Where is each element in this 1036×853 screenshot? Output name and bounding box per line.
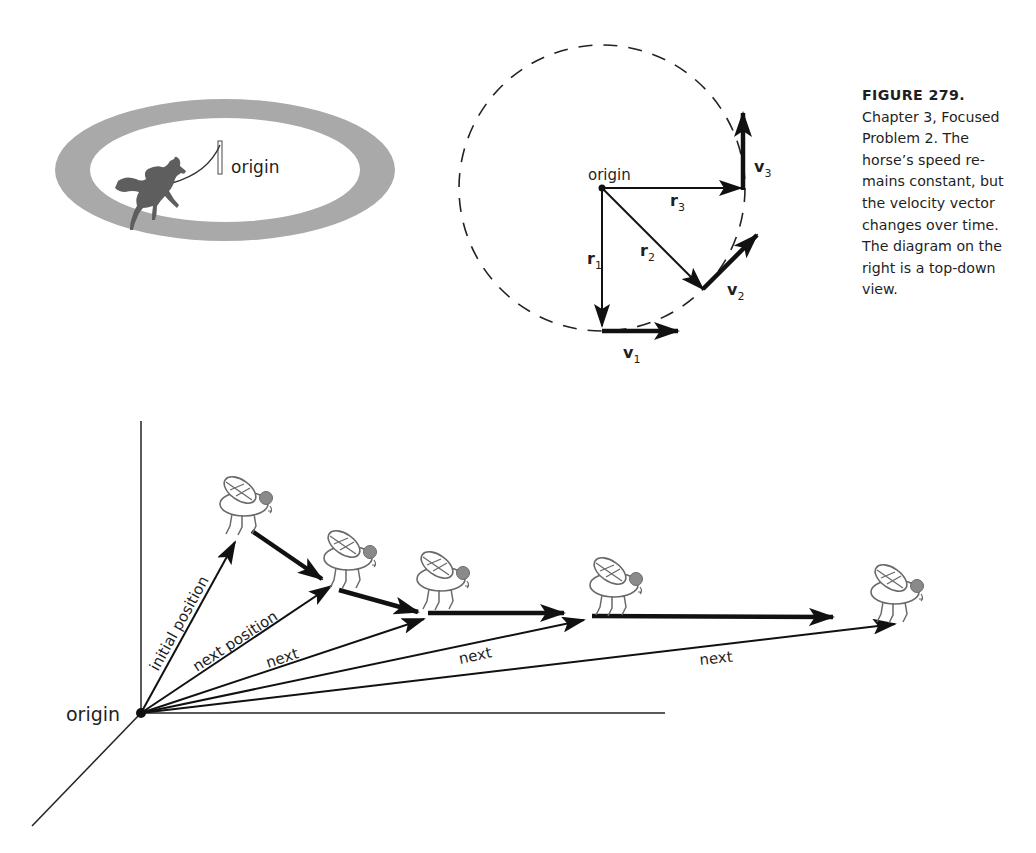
fly-icon bbox=[871, 559, 924, 623]
displacement-vector-1 bbox=[252, 531, 322, 579]
displacement-vector-4 bbox=[592, 616, 833, 617]
r2-vector bbox=[602, 188, 703, 289]
topdown-origin-label: origin bbox=[588, 166, 631, 184]
fly-icon bbox=[324, 525, 377, 589]
v1-label: v1 bbox=[623, 343, 640, 366]
caption-line: mains constant, but bbox=[862, 171, 1036, 193]
label-next-3: next bbox=[699, 648, 734, 669]
horse-origin-label: origin bbox=[231, 157, 279, 177]
figure-caption: FIGURE 279. Chapter 3, Focused Problem 2… bbox=[862, 85, 1036, 301]
fly-icon bbox=[590, 552, 643, 616]
caption-line: view. bbox=[862, 279, 1036, 301]
caption-line: right is a top-down bbox=[862, 258, 1036, 280]
fly-trajectory-panel: origin initial position next position ne… bbox=[32, 421, 924, 826]
label-next-1: next bbox=[264, 644, 301, 671]
caption-line: the velocity vector bbox=[862, 193, 1036, 215]
caption-line: The diagram on the bbox=[862, 236, 1036, 258]
r2-label: r2 bbox=[640, 241, 655, 264]
topdown-velocity-panel: origin r1 r2 r3 v1 v2 v3 bbox=[459, 45, 771, 366]
displacement-vector-2 bbox=[339, 590, 418, 612]
v3-label: v3 bbox=[754, 157, 771, 180]
v2-label: v2 bbox=[727, 280, 744, 303]
fly-icon bbox=[220, 471, 273, 535]
caption-line: changes over time. bbox=[862, 215, 1036, 237]
r3-label: r3 bbox=[670, 191, 685, 214]
horse-track-panel: origin bbox=[55, 99, 395, 241]
track-ring bbox=[55, 99, 395, 241]
fly-icon bbox=[417, 546, 470, 610]
figure-number: FIGURE 279. bbox=[862, 85, 1036, 107]
y-axis bbox=[32, 713, 141, 826]
caption-line: horse’s speed re- bbox=[862, 150, 1036, 172]
fly-origin-label: origin bbox=[66, 703, 120, 725]
caption-line: Chapter 3, Focused bbox=[862, 107, 1036, 129]
label-next-2: next bbox=[457, 643, 493, 668]
r1-label: r1 bbox=[587, 249, 602, 272]
caption-line: Problem 2. The bbox=[862, 128, 1036, 150]
